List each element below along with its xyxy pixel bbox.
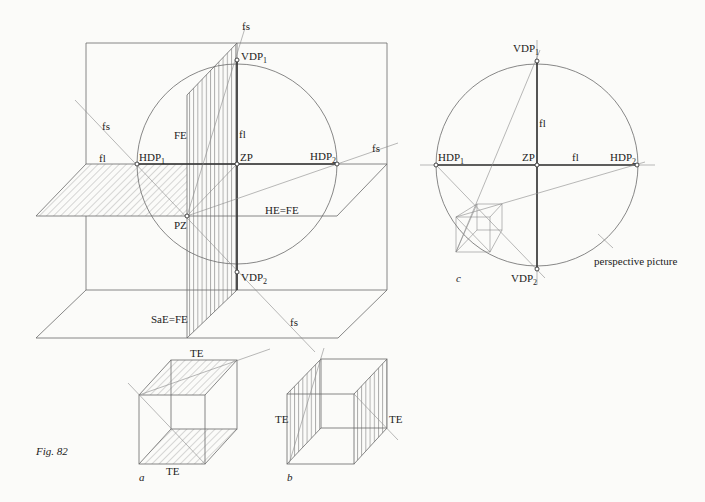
c-label-zp: ZP (522, 151, 535, 163)
label-fs-left: fs (102, 120, 110, 132)
label-fl-horizontal: fl (99, 152, 106, 164)
vertical-plane-sae-fe (187, 43, 237, 338)
view-c: VDP1 VDP2 HDP1 HDP2 ZP fl fl perspective… (420, 40, 677, 287)
vdp1-point (235, 58, 239, 62)
label-vdp2: VDP2 (241, 271, 267, 286)
c-zp-point (535, 163, 539, 167)
label-fs-bottom: fs (290, 316, 298, 328)
c-label-hdp1: HDP1 (438, 151, 464, 166)
c-vdp2-point (535, 267, 539, 271)
label-zp: ZP (240, 151, 253, 163)
fs-line-left-extension (248, 282, 315, 352)
figure-82-diagram: fs fs fs fs fl fl FE HDP1 HDP2 VDP1 VDP2… (0, 0, 705, 502)
c-label-hdp2: HDP2 (610, 151, 636, 166)
c-label-perspective-picture: perspective picture (594, 255, 677, 267)
c-label-vdp1: VDP1 (513, 42, 539, 57)
c-leader-line (598, 234, 613, 248)
vdp2-point (235, 270, 239, 274)
pz-point (185, 214, 189, 218)
label-fs-right: fs (372, 142, 380, 154)
label-vdp1: VDP1 (241, 50, 267, 65)
c-small-cube (456, 204, 502, 252)
cube-a-label: a (139, 471, 145, 483)
label-pz: PZ (174, 219, 187, 231)
cube-b-label-te-left: TE (275, 413, 289, 425)
cube-a: TE TE a (128, 347, 270, 483)
c-line-to-hdp2 (456, 162, 645, 217)
c-label-fl-vertical: fl (539, 117, 546, 129)
figure-caption: Fig. 82 (35, 445, 68, 457)
cube-b-label: b (287, 471, 293, 483)
cube-b-label-te-right: TE (389, 413, 403, 425)
label-he-fe: HE=FE (265, 204, 299, 216)
c-label-vdp2: VDP2 (511, 272, 537, 287)
c-hdp1-point (434, 163, 438, 167)
c-label-fl-horizontal: fl (572, 151, 579, 163)
label-fe: FE (174, 129, 187, 141)
cube-a-label-te-bottom: TE (166, 465, 180, 477)
c-vdp1-point (535, 59, 539, 63)
c-label: c (456, 272, 461, 284)
cube-b: TE TE b (275, 348, 403, 483)
label-sae-fe: SaE=FE (151, 313, 188, 325)
cube-a-label-te-top: TE (190, 347, 204, 359)
c-line-hdp1-vdp2 (436, 165, 545, 278)
label-hdp2: HDP2 (310, 150, 336, 165)
zp-point (235, 162, 239, 166)
label-fl-vertical: fl (239, 128, 246, 140)
horizontal-plane-hatched-region (36, 164, 187, 216)
main-view: fs fs fs fs fl fl FE HDP1 HDP2 VDP1 VDP2… (36, 20, 398, 352)
label-fs-top: fs (242, 20, 250, 32)
